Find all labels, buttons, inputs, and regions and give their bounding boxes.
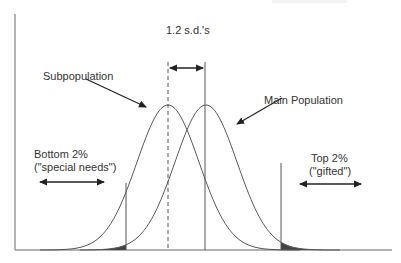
subpopulation-arrow [86,79,146,107]
main-population-label: Main Population [264,94,343,107]
sd-gap-label: 1.2 s.d.'s [166,24,210,37]
main-population-curve [80,105,340,250]
bottom-label-line1: Bottom 2% [34,148,88,161]
subpopulation-label: Subpopulation [43,70,113,83]
normal-distribution-diagram [0,0,401,263]
top-label-line1: Top 2% [311,152,348,165]
bottom-label-line2: ("special needs") [34,161,116,174]
top-label-line2: ("gifted") [309,165,351,178]
